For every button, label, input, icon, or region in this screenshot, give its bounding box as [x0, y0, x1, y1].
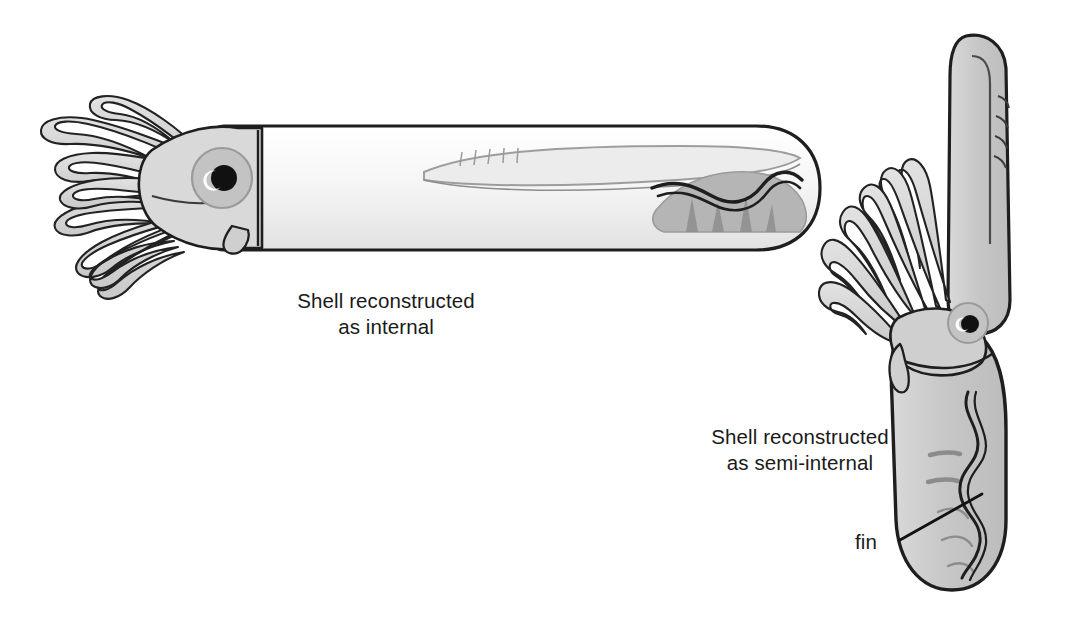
caption-semi-internal: Shell reconstructed as semi-internal	[640, 424, 960, 476]
horizontal-squid	[41, 96, 820, 299]
label-fin: fin	[855, 529, 901, 555]
figure-canvas: Shell reconstructed as internal Shell re…	[0, 0, 1088, 625]
horizontal-eye	[192, 148, 252, 208]
caption-internal: Shell reconstructed as internal	[236, 288, 536, 340]
semi-internal-shell	[948, 35, 1010, 334]
vertical-squid	[819, 35, 1010, 590]
squid-illustration	[0, 0, 1088, 625]
vertical-eye	[948, 303, 988, 343]
